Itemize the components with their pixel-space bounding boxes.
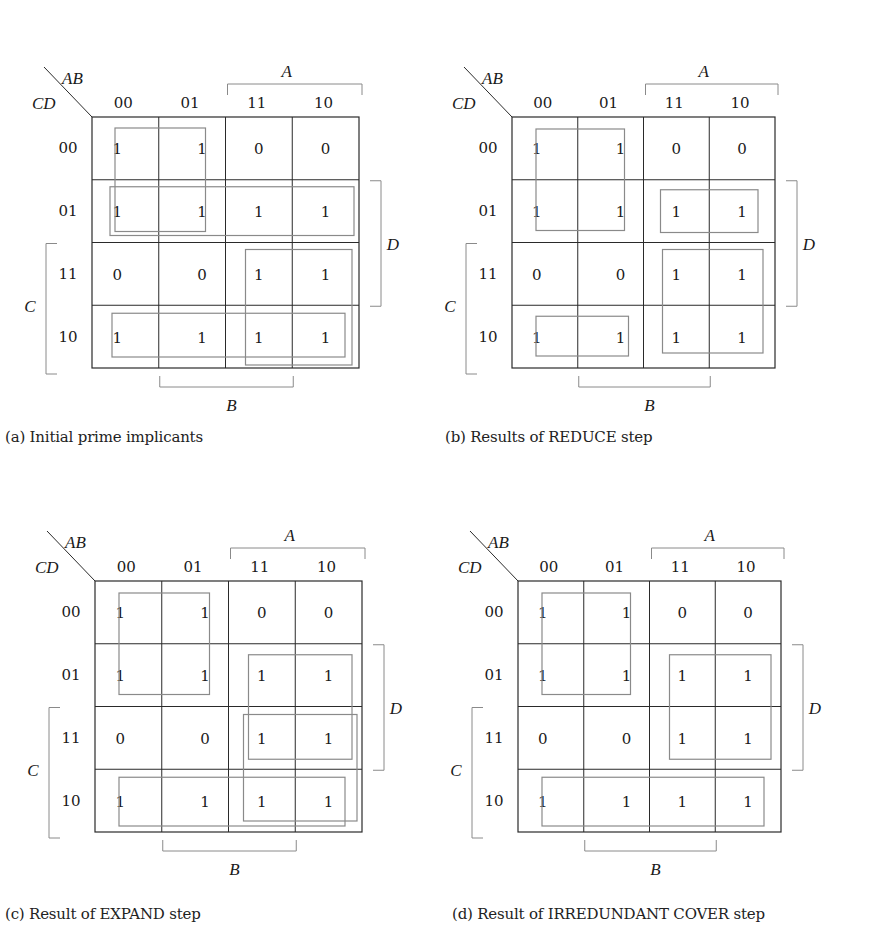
cell-value: 1 — [321, 329, 331, 347]
label-d: D — [808, 699, 822, 718]
row-header: 11 — [478, 265, 497, 283]
caption-c: (c) Result of EXPAND step — [5, 905, 201, 923]
col-header: 11 — [247, 94, 266, 112]
cell-value: 0 — [743, 604, 753, 622]
row-header: 10 — [484, 792, 503, 810]
bracket-d — [370, 181, 381, 307]
kmap-d: ABCD00011110000111101100111100111111ABCD — [450, 526, 822, 879]
label-d: D — [802, 235, 816, 254]
cell-value: 1 — [743, 730, 753, 748]
col-header: 00 — [533, 94, 552, 112]
row-header: 11 — [484, 729, 503, 747]
cell-value: 1 — [538, 793, 548, 811]
cell-value: 1 — [254, 329, 264, 347]
col-var-label: AB — [61, 69, 83, 88]
cell-value: 0 — [116, 730, 126, 748]
cell-value: 1 — [532, 329, 542, 347]
label-c: C — [24, 297, 36, 316]
row-header: 10 — [58, 328, 77, 346]
row-header: 00 — [61, 603, 80, 621]
label-a: A — [698, 62, 710, 81]
row-header: 01 — [61, 666, 80, 684]
cell-value: 1 — [538, 604, 548, 622]
col-header: 00 — [117, 558, 136, 576]
cell-value: 1 — [197, 329, 207, 347]
col-header: 10 — [314, 94, 333, 112]
cell-value: 1 — [200, 604, 210, 622]
cell-value: 1 — [324, 793, 334, 811]
row-header: 10 — [61, 792, 80, 810]
cell-value: 1 — [737, 266, 747, 284]
col-header: 01 — [184, 558, 203, 576]
cell-value: 1 — [538, 667, 548, 685]
col-var-label: AB — [64, 533, 86, 552]
label-c: C — [450, 761, 462, 780]
implicant-box — [542, 777, 764, 826]
row-header: 01 — [478, 202, 497, 220]
cell-value: 1 — [672, 203, 682, 221]
cell-value: 1 — [616, 329, 626, 347]
cell-value: 1 — [254, 266, 264, 284]
cell-value: 1 — [743, 793, 753, 811]
cell-value: 1 — [321, 266, 331, 284]
bracket-c — [472, 708, 483, 839]
kmap-a: ABCD00011110000111101100111100111111ABCD — [24, 62, 400, 415]
cell-value: 0 — [113, 266, 123, 284]
row-header: 00 — [478, 139, 497, 157]
cell-value: 1 — [116, 604, 126, 622]
cell-value: 1 — [254, 203, 264, 221]
col-header: 00 — [539, 558, 558, 576]
cell-value: 1 — [257, 667, 267, 685]
cell-value: 1 — [113, 329, 123, 347]
label-c: C — [27, 761, 39, 780]
cell-value: 0 — [324, 604, 334, 622]
kmap-c: ABCD00011110000111101100111100111111ABCD — [27, 526, 403, 879]
col-header: 00 — [114, 94, 133, 112]
implicant-box — [112, 313, 345, 357]
cell-value: 1 — [324, 667, 334, 685]
cell-value: 0 — [321, 140, 331, 158]
cell-value: 0 — [622, 730, 632, 748]
cell-value: 0 — [200, 730, 210, 748]
row-header: 11 — [58, 265, 77, 283]
cell-value: 1 — [116, 667, 126, 685]
bracket-d — [373, 645, 384, 771]
cell-value: 1 — [200, 667, 210, 685]
cell-value: 1 — [737, 203, 747, 221]
cell-value: 1 — [672, 266, 682, 284]
bracket-c — [466, 244, 477, 375]
col-var-label: AB — [487, 533, 509, 552]
bracket-b — [585, 840, 717, 851]
row-var-label: CD — [458, 558, 482, 577]
row-header: 01 — [484, 666, 503, 684]
cell-value: 1 — [678, 667, 688, 685]
cell-value: 1 — [200, 793, 210, 811]
label-b: B — [650, 860, 661, 879]
cell-value: 0 — [616, 266, 626, 284]
cell-value: 1 — [257, 730, 267, 748]
cell-value: 1 — [113, 203, 123, 221]
label-b: B — [229, 860, 240, 879]
cell-value: 1 — [678, 730, 688, 748]
label-b: B — [644, 396, 655, 415]
col-header: 01 — [181, 94, 200, 112]
bracket-d — [786, 181, 797, 307]
label-a: A — [281, 62, 293, 81]
bracket-b — [160, 376, 294, 387]
col-header: 01 — [605, 558, 624, 576]
col-header: 11 — [250, 558, 269, 576]
bracket-b — [579, 376, 711, 387]
bracket-b — [163, 840, 297, 851]
label-a: A — [704, 526, 716, 545]
row-header: 10 — [478, 328, 497, 346]
col-header: 11 — [671, 558, 690, 576]
implicant-box — [119, 777, 345, 826]
cell-value: 0 — [532, 266, 542, 284]
cell-value: 1 — [622, 793, 632, 811]
row-header: 11 — [61, 729, 80, 747]
label-c: C — [444, 297, 456, 316]
bracket-c — [46, 244, 57, 375]
col-header: 10 — [731, 94, 750, 112]
row-header: 01 — [58, 202, 77, 220]
implicant-box — [110, 187, 354, 236]
